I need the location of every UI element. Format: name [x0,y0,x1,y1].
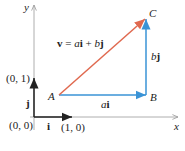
point-b-label: B [150,92,157,103]
origin-label: (0, 0) [9,120,33,131]
i-label: i [47,121,50,132]
j-label: j [26,98,30,109]
vector-v [59,19,145,95]
point-a-label: A [48,91,55,102]
v-equation-label: v = ai + bj [57,38,104,49]
x-axis-label: x [174,121,179,132]
y-axis-label: y [24,2,29,13]
point-c-label: C [149,8,156,19]
unit-x-point-label: (1, 0) [61,122,85,133]
bj-label: bj [151,51,160,62]
ai-label: ai [101,99,110,110]
unit-y-point-label: (0, 1) [6,73,30,84]
